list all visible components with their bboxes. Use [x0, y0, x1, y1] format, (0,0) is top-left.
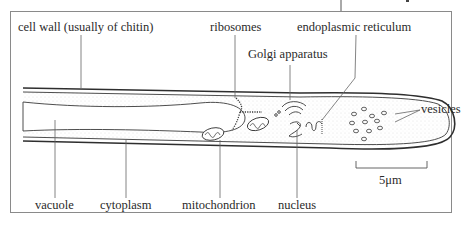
label-vacuole: vacuole [35, 198, 74, 213]
leader-er-a [355, 35, 356, 78]
label-golgi-apparatus: Golgi apparatus [248, 47, 328, 62]
cropped-text-fragment [406, 0, 409, 2]
label-scale-bar: 5μm [379, 173, 402, 188]
label-ribosomes: ribosomes [210, 20, 261, 35]
label-cytoplasm: cytoplasm [100, 198, 151, 213]
label-cell-wall: cell wall (usually of chitin) [18, 20, 153, 35]
label-mitochondrion: mitochondrion [182, 198, 256, 213]
label-endoplasmic-reticulum: endoplasmic reticulum [297, 20, 411, 35]
scale-bar [356, 161, 427, 168]
label-nucleus: nucleus [278, 198, 316, 213]
label-vesicles: vesicles [421, 102, 461, 117]
